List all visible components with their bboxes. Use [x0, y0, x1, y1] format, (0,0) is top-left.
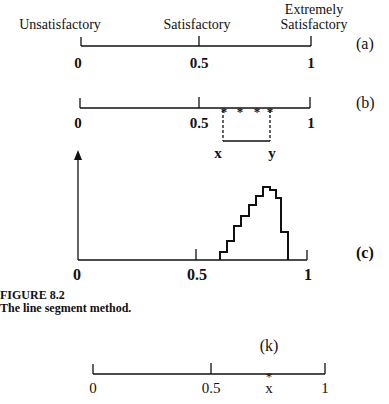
- interval-label-x: x: [214, 146, 222, 161]
- panel-label-c: (c): [356, 245, 374, 260]
- histogram-axes: [78, 157, 307, 260]
- tick-0-b: 0: [74, 116, 82, 131]
- mark-label-x-k: x: [265, 381, 273, 396]
- tick-0-k: 0: [89, 381, 97, 396]
- tick-0-c: 0: [73, 267, 81, 282]
- scale-k: [93, 363, 325, 374]
- tick-1-a: 1: [307, 56, 315, 71]
- response-mark: *: [267, 104, 274, 119]
- tick-05-b: 0.5: [190, 116, 209, 131]
- tick-05-a: 0.5: [190, 56, 209, 71]
- tick-05-c: 0.5: [187, 267, 207, 282]
- y-axis-arrow-icon: [74, 150, 82, 160]
- anchor-unsatisfactory: Unsatisfactory: [19, 17, 101, 32]
- tick-1-c: 1: [304, 267, 312, 282]
- histogram-outline: [220, 187, 288, 260]
- figure-caption-text: The line segment method.: [0, 302, 131, 315]
- panel-label-b: (b): [356, 95, 375, 110]
- anchor-extremely-satisfactory: Satisfactory: [281, 17, 348, 32]
- interval-label-y: y: [268, 146, 276, 161]
- panel-label-k: (k): [260, 338, 279, 353]
- response-mark: *: [254, 104, 261, 119]
- anchor-satisfactory: Satisfactory: [164, 17, 231, 32]
- tick-1-k: 1: [321, 381, 329, 396]
- tick-05-k: 0.5: [202, 381, 221, 396]
- tick-0-a: 0: [74, 56, 82, 71]
- response-mark: *: [237, 104, 244, 119]
- scale-a: [81, 36, 311, 46]
- response-mark: *: [221, 104, 228, 119]
- anchor-extremely: Extremely: [285, 2, 343, 17]
- tick-1-b: 1: [307, 116, 315, 131]
- panel-label-a: (a): [356, 36, 374, 51]
